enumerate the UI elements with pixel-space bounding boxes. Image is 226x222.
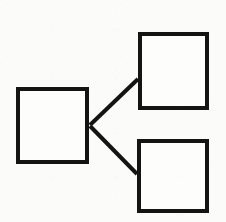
connector-left-to-top-right (90, 79, 138, 125)
left-block[interactable] (18, 89, 87, 162)
diagram-canvas (0, 0, 226, 222)
diagram-svg (0, 0, 226, 222)
connector-left-to-bottom-right (90, 126, 137, 174)
bottom-right-block[interactable] (139, 141, 207, 211)
top-right-block[interactable] (140, 34, 207, 108)
